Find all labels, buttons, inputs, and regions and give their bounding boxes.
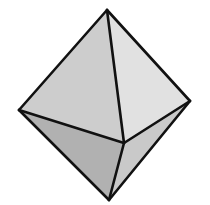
octahedron-diagram (0, 0, 210, 205)
faces-group (19, 10, 190, 200)
octahedron-shape (0, 0, 210, 205)
